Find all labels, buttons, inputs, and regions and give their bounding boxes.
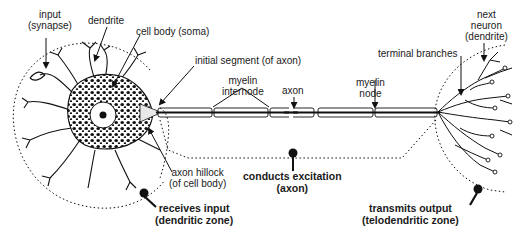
zone-label-axon-line2: (axon) <box>243 182 342 194</box>
label-myelin-node-line1: myelin <box>356 77 385 88</box>
label-input-line1: input <box>28 9 72 20</box>
label-cell-body: cell body (soma) <box>136 26 209 37</box>
label-myelin-internode-line2: internode <box>222 86 264 97</box>
label-axon-hillock-line2: (of cell body) <box>169 178 226 189</box>
neuron-illustration <box>0 0 518 235</box>
zone-label-axon-line1: conducts excitation <box>243 170 342 182</box>
label-myelin-node-line2: node <box>356 88 385 99</box>
zone-label-telodendritic-line2: (telodendritic zone) <box>362 214 459 226</box>
axon-zone-boundary <box>160 120 436 158</box>
synaptic-boutons <box>486 66 512 174</box>
label-myelin-internode-line1: myelin <box>222 75 264 86</box>
label-myelin-internode: myelin internode <box>222 75 264 97</box>
zone-label-dendritic: receives input (dendritic zone) <box>155 202 233 226</box>
label-next-neuron-line1: next <box>465 9 508 20</box>
zone-label-telodendritic: transmits output (telodendritic zone) <box>362 202 459 226</box>
zone-label-dendritic-line1: receives input <box>155 202 233 214</box>
label-input: input (synapse) <box>28 9 72 31</box>
neuron-diagram: input (synapse) dendrite cell body (soma… <box>0 0 518 235</box>
label-next-neuron-line2: neuron <box>465 20 508 31</box>
axon <box>156 106 440 119</box>
label-myelin-node: myelin node <box>356 77 385 99</box>
label-axon: axon <box>282 85 304 96</box>
label-axon-hillock-line1: axon hillock <box>169 167 226 178</box>
label-next-neuron-line3: (dendrite) <box>465 31 508 42</box>
label-next-neuron: next neuron (dendrite) <box>465 9 508 42</box>
label-input-line2: (synapse) <box>28 20 72 31</box>
label-initial-segment: initial segment (of axon) <box>195 55 301 66</box>
zone-label-telodendritic-line1: transmits output <box>362 202 459 214</box>
zone-label-axon: conducts excitation (axon) <box>243 170 342 194</box>
zone-label-dendritic-line2: (dendritic zone) <box>155 214 233 226</box>
label-dendrite: dendrite <box>88 15 124 26</box>
label-terminal-branches: terminal branches <box>378 48 457 59</box>
label-axon-hillock: axon hillock (of cell body) <box>169 167 226 189</box>
